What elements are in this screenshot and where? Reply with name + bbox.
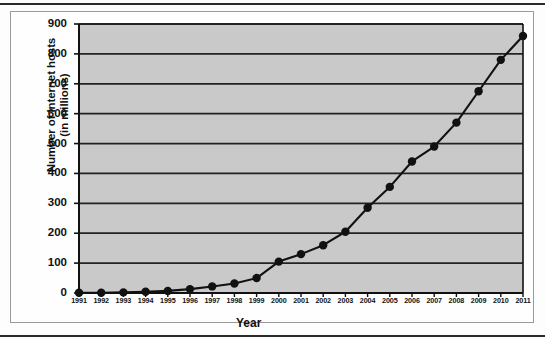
x-tick-label: 2011 [508,296,538,305]
data-point-marker [363,204,371,212]
data-point-marker [408,157,416,165]
data-point-marker [141,288,149,296]
data-point-marker [208,282,216,290]
data-point-marker [252,274,260,282]
x-axis-title: Year [236,316,261,330]
data-point-marker [430,142,438,150]
data-point-marker [297,250,305,258]
data-point-marker [275,257,283,265]
plot-area-container: 0100200300400500600700800900 19911992199… [0,0,545,339]
data-point-marker [474,87,482,95]
y-tick-label: 0 [31,286,67,298]
chart-figure: 0100200300400500600700800900 19911992199… [0,0,545,339]
line-chart-svg [0,0,545,339]
data-point-marker [230,279,238,287]
y-tick-label: 100 [31,256,67,268]
data-point-marker [497,56,505,64]
data-point-marker [519,32,527,40]
data-point-marker [319,241,327,249]
data-point-marker [452,118,460,126]
data-point-marker [341,228,349,236]
y-tick-label: 200 [31,226,67,238]
data-point-marker [386,183,394,191]
data-point-marker [186,285,194,293]
y-axis-title-line1: Number of Internet hosts [45,5,58,205]
data-point-marker [164,287,172,295]
y-axis-title-line2: (in millions) [58,5,71,205]
y-axis-title: Number of Internet hosts (in millions) [45,5,71,205]
